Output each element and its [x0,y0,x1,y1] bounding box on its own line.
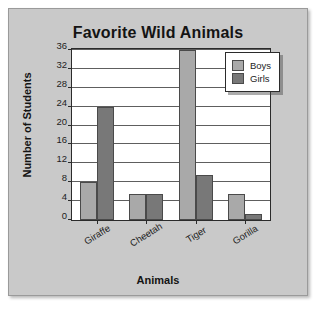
y-tick-label: 0 [62,210,67,221]
x-tick-label: Gorilla [231,223,260,247]
x-tick-label: Giraffe [82,222,112,246]
bar-girls-cheetah [146,194,163,220]
y-tick-label: 8 [62,172,67,183]
legend-swatch-girls [232,73,244,84]
x-tick-mark [196,220,197,224]
y-tick-label: 12 [56,153,67,164]
y-tick-label: 16 [56,134,67,145]
bar-boys-gorilla [228,194,245,220]
y-tick-label: 4 [62,191,67,202]
y-axis-label: Number of Students [21,55,33,195]
legend-swatch-boys [232,60,244,71]
bar-group: Giraffe [72,49,122,220]
legend-label: Boys [250,60,271,71]
bar-girls-giraffe [97,107,114,220]
x-tick-mark [146,220,147,224]
y-tick-label: 24 [56,96,67,107]
bar-boys-tiger [179,50,196,220]
y-tick-label: 28 [56,77,67,88]
x-tick-label: Cheetah [128,220,164,248]
legend-label: Girls [250,73,270,84]
chart-panel: Favorite Wild Animals Number of Students… [8,8,308,296]
chart-legend: BoysGirls [225,52,280,92]
y-tick-label: 32 [56,58,67,69]
bar-group: Tiger [171,49,221,220]
legend-item-boys: Boys [232,60,271,71]
bar-boys-giraffe [80,182,97,220]
chart-title: Favorite Wild Animals [9,24,307,42]
x-tick-mark [245,220,246,224]
x-tick-mark [97,220,98,224]
legend-item-girls: Girls [232,73,271,84]
y-tick-label: 20 [56,115,67,126]
y-tick-label: 36 [56,40,67,51]
bar-girls-tiger [196,175,213,220]
x-tick-label: Tiger [184,224,208,245]
bar-girls-gorilla [245,214,262,220]
bar-boys-cheetah [129,194,146,220]
x-axis-label: Animals [9,274,307,286]
bar-group: Cheetah [122,49,172,220]
